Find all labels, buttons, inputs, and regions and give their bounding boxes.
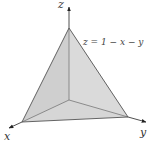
y-axis [128, 117, 146, 122]
x-axis [9, 122, 22, 128]
tetrahedron-diagram: z x y z = 1 − x − y [0, 0, 155, 144]
y-axis-label: y [139, 126, 147, 139]
plane-equation-label: z = 1 − x − y [82, 37, 144, 47]
z-axis-label: z [57, 0, 64, 11]
x-axis-label: x [4, 130, 11, 143]
